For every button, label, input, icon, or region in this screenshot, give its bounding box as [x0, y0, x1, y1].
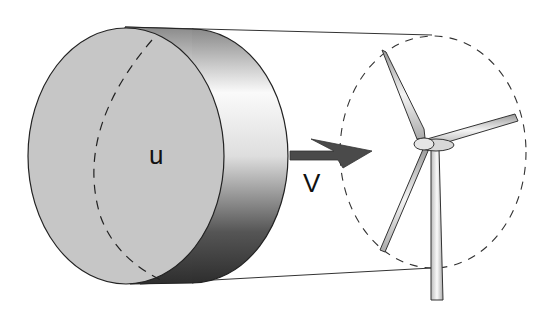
- turbine-blade-upper: [382, 50, 425, 139]
- turbine-hub: [414, 138, 434, 150]
- cylinder-front-face: [28, 28, 224, 284]
- flow-arrow: [290, 139, 372, 168]
- wind-turbine: [380, 50, 518, 300]
- turbine-blade-lower: [380, 147, 428, 252]
- wind-stream-diagram: [0, 0, 550, 311]
- label-upstream-velocity: u: [149, 140, 163, 171]
- turbine-tower: [431, 148, 443, 300]
- label-rotor-velocity: V: [303, 168, 320, 199]
